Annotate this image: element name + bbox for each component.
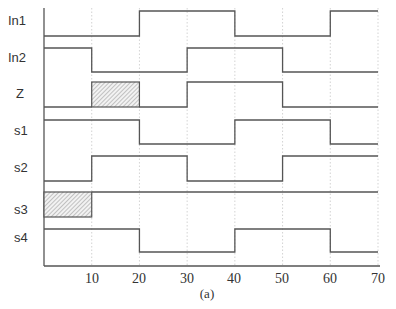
waveform-in2 <box>44 48 378 72</box>
waveform-s3 <box>44 192 378 217</box>
signal-trace <box>44 11 378 36</box>
signal-label-s4: s4 <box>14 230 28 245</box>
tick-label-30: 30 <box>180 271 194 286</box>
tick-label-70: 70 <box>371 271 385 286</box>
signal-label-s2: s2 <box>14 160 28 175</box>
waveforms <box>44 11 378 252</box>
unknown-state-region <box>44 192 92 217</box>
signal-trace <box>44 48 378 72</box>
waveform-in1 <box>44 11 378 36</box>
tick-label-20: 20 <box>132 271 146 286</box>
figure-caption: (a) <box>200 286 214 301</box>
time-tick-labels: 10 20 30 40 50 60 70 <box>85 271 385 286</box>
signal-trace <box>44 156 378 181</box>
signal-label-s3: s3 <box>14 202 28 217</box>
signal-labels: In1 In2 Z s1 s2 s3 s4 <box>8 13 28 245</box>
signal-label-in2: In2 <box>8 50 26 65</box>
signal-trace <box>44 229 378 252</box>
tick-label-40: 40 <box>227 271 241 286</box>
waveform-s1 <box>44 120 378 144</box>
unknown-state-region <box>92 82 140 107</box>
timing-diagram: In1 In2 Z s1 s2 s3 s4 10 20 30 40 50 60 … <box>0 0 396 309</box>
signal-label-in1: In1 <box>8 13 26 28</box>
tick-label-10: 10 <box>85 271 99 286</box>
waveform-z <box>44 82 378 107</box>
tick-label-60: 60 <box>323 271 337 286</box>
signal-label-z: Z <box>16 86 24 101</box>
waveform-s4 <box>44 229 378 252</box>
signal-trace <box>44 120 378 144</box>
signal-label-s1: s1 <box>14 123 28 138</box>
waveform-s2 <box>44 156 378 181</box>
tick-label-50: 50 <box>275 271 289 286</box>
